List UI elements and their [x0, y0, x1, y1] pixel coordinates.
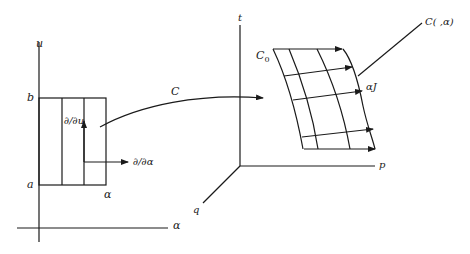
surface-alpha-line-3: [293, 91, 362, 100]
alpha-axis-label: α: [173, 220, 180, 231]
vector-dalpha-label: ∂/∂α: [133, 157, 153, 167]
c0-label-subscript: 0: [264, 55, 269, 64]
diagram-graphics: [0, 0, 470, 254]
curve-label-leader: [358, 23, 422, 76]
map-c-label: C: [171, 86, 179, 97]
map-c-curve: [100, 97, 263, 127]
t-axis-label: t: [238, 13, 242, 23]
surface-alpha-line-2: [284, 67, 352, 76]
q-axis: [203, 166, 240, 203]
q-axis-label: q: [193, 205, 199, 215]
tick-a-label: a: [27, 179, 34, 190]
vector-du-label: ∂/∂u: [64, 116, 84, 126]
u-axis-label: u: [36, 38, 43, 49]
surface-right-edge: [343, 49, 375, 149]
rect-alpha-label: α: [104, 189, 111, 200]
p-axis-label: p: [379, 160, 385, 170]
parameter-rectangle: [39, 98, 106, 185]
curve-c-alpha-label: C( ,α): [425, 17, 454, 27]
surface-alpha-line-4: [302, 129, 373, 137]
tick-b-label: b: [27, 92, 34, 103]
mapping-diagram: u α b a α ∂/∂u ∂/∂α C t p q C0 αJ C( ,α): [0, 0, 470, 254]
c0-label: C0: [256, 50, 270, 64]
alpha-j-label: αJ: [366, 82, 377, 92]
